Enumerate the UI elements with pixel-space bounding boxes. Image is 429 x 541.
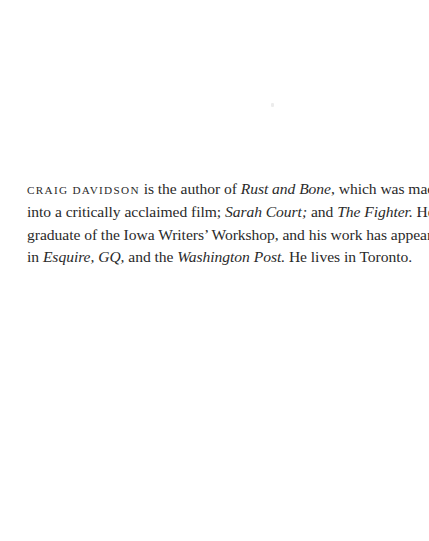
book-title-rust-and-bone: Rust and Bone	[241, 180, 331, 197]
bio-line-3: graduate of the Iowa Writers’ Workshop, …	[27, 224, 402, 246]
author-name: CRAIG DAVIDSON	[27, 184, 140, 196]
publication-esquire-gq: Esquire, GQ,	[43, 248, 125, 265]
book-title-sarah-court: Sarah Court;	[225, 203, 307, 220]
bio-line-1: CRAIG DAVIDSON is the author of Rust and…	[27, 178, 402, 201]
book-page: CRAIG DAVIDSON is the author of Rust and…	[0, 0, 429, 541]
author-bio-paragraph: CRAIG DAVIDSON is the author of Rust and…	[27, 178, 402, 269]
publication-washington-post: Washington Post.	[177, 248, 285, 265]
scan-speck	[271, 103, 274, 107]
bio-line-2: into a critically acclaimed film; Sarah …	[27, 201, 402, 223]
bio-line-4: in Esquire, GQ, and the Washington Post.…	[27, 246, 402, 268]
book-title-the-fighter: The Fighter.	[337, 203, 413, 220]
